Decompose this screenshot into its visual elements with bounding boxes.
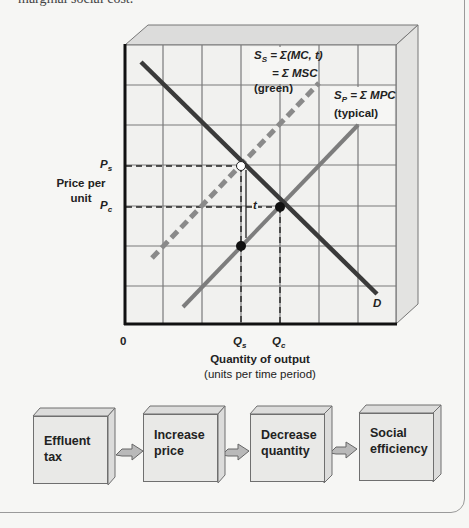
flow-step-label-2: quantity (261, 444, 317, 460)
chart-depth-top (125, 25, 418, 45)
flow-step-decrease-quantity: Decreasequantity (250, 414, 325, 482)
origin-label: 0 (120, 334, 126, 349)
flow-step-label: Social (370, 426, 428, 442)
right-arrow-icon (222, 444, 249, 460)
flow-step-label: Effluent tax (44, 434, 107, 465)
sp-label: SP = Σ MPC (typical) (334, 88, 396, 121)
qs-label: Qs (233, 334, 246, 352)
demand-label: D (373, 296, 381, 311)
ss-label: SS = Σ(MC, t) = Σ MSC (green) (254, 48, 323, 96)
tax-label: t (252, 198, 258, 213)
pc-subscript: c (108, 205, 112, 214)
ss-formula-2: = Σ MSC (254, 66, 323, 81)
qs-symbol: Q (233, 335, 242, 347)
ps-symbol: P (100, 158, 108, 170)
flow-step-label-2: efficiency (370, 442, 428, 458)
ss-green-label: (green) (254, 81, 323, 96)
ps-subscript: s (108, 164, 112, 173)
private-equilibrium-point (275, 202, 285, 212)
qc-subscript: c (281, 341, 285, 350)
qc-label: Qc (272, 334, 285, 352)
flow-step-label-2: price (154, 444, 205, 460)
flow-step-effluent-tax: Effluent tax (33, 416, 108, 484)
sp-typical-label: (typical) (334, 106, 396, 121)
mpc-at-qs-point (236, 241, 246, 251)
chart-depth-side (396, 25, 418, 324)
qs-subscript: s (242, 341, 246, 350)
y-axis-label: Price per unit (46, 176, 116, 206)
flow-step-social-efficiency: Socialefficiency (359, 413, 434, 481)
right-arrow-icon (330, 442, 357, 458)
ss-symbol: S (254, 49, 262, 61)
sp-symbol: S (334, 89, 342, 101)
ss-formula: = Σ(MC, t) (267, 49, 323, 61)
ps-label: Ps (100, 157, 112, 175)
sp-formula: = Σ MPC (347, 89, 396, 101)
social-equilibrium-point (237, 162, 246, 171)
x-axis-title: Quantity of output (180, 352, 340, 367)
qc-symbol: Q (272, 335, 281, 347)
flow-step-increase-price: Increaseprice (143, 414, 218, 482)
right-arrow-icon (116, 444, 143, 460)
x-axis-label: Quantity of output (units per time perio… (180, 352, 340, 382)
x-axis-subtitle: (units per time period) (180, 367, 340, 382)
flow-step-label: Increase (154, 428, 205, 444)
flow-step-label: Decrease (261, 428, 317, 444)
